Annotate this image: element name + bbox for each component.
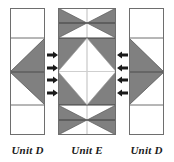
arrow-right-icon <box>47 89 58 97</box>
arrows-left-group <box>47 51 58 97</box>
unit-e-middle-label: Unit E <box>59 144 115 156</box>
arrow-left-icon <box>117 89 128 97</box>
arrow-left-icon <box>117 76 128 84</box>
arrow-right-icon <box>47 51 58 59</box>
arrow-right-icon <box>47 76 58 84</box>
arrow-right-icon <box>47 64 58 72</box>
unit-d-left-label: Unit D <box>2 144 53 156</box>
unit-d-left-graphic <box>10 8 45 135</box>
unit-e-middle-graphic <box>58 8 116 135</box>
unit-d-right <box>129 8 164 135</box>
arrow-left-icon <box>117 64 128 72</box>
arrow-left-icon <box>117 51 128 59</box>
diagram-canvas: Unit D Unit E Unit D <box>0 0 174 162</box>
unit-e-middle <box>58 8 116 135</box>
unit-d-left <box>10 8 45 135</box>
unit-d-right-graphic <box>129 8 164 135</box>
arrows-right-group <box>117 51 128 97</box>
unit-d-right-label: Unit D <box>121 144 172 156</box>
